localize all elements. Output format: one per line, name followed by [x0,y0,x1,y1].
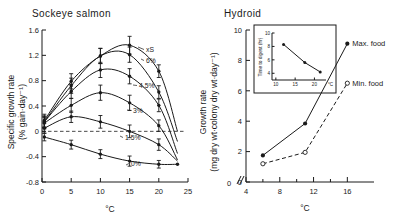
hydroid-legend-minfood: Min. food [352,79,383,88]
sockeye-data-point [70,104,73,107]
inset-data-point [319,70,322,73]
sockeye-label-leader [133,85,137,86]
sockeye-data-point [128,130,131,133]
sockeye-y-tick-label: 0.4 [29,102,39,111]
hydroid-plot-area: 02468104812160Max. foodMin. food [227,26,385,196]
sockeye-data-point [70,115,73,118]
hydroid-y-tick-label: 4 [238,117,242,126]
sockeye-data-point [99,68,102,71]
sockeye-curve-label-xs: xS [146,46,154,53]
hydroid-data-point-open [261,162,265,166]
hydroid-data-point-open [345,81,349,85]
sockeye-curve-label-15: 1.5% [125,134,141,141]
sockeye-data-point [157,90,160,93]
figure-container: Sockeye salmon Specific growth rate (% g… [0,0,409,218]
sockeye-data-point [157,104,160,107]
sockeye-y-tick-label: -0.4 [26,152,39,161]
sockeye-curve-label-6: 6% [146,57,156,64]
hydroid-x-axis-label: °C [300,203,310,213]
sockeye-salmon-chart: Sockeye salmon Specific growth rate (% g… [0,0,200,218]
sockeye-data-point [157,124,160,127]
inset-y-axis-label: Time to digest (hr) [258,37,263,76]
hydroid-y-tick-label: 8 [238,56,242,65]
sockeye-data-point [70,143,73,146]
sockeye-data-point [99,120,102,123]
sockeye-x-tick-label: 5 [69,187,73,196]
inset-y-tick-label: 4 [267,71,270,76]
hydroid-x-tick-label: 12 [309,187,317,196]
inset-curve [284,44,321,72]
inset-data-point [282,43,285,46]
sockeye-x-tick-label: 15 [125,187,133,196]
hydroid-x-tick-label: 4 [244,187,248,196]
inset-x-tick-label: 15 [293,82,299,87]
sockeye-y-tick-label: 1.6 [29,26,39,35]
hydroid-legend-maxfood: Max. food [352,39,385,48]
time-to-digest-inset-plot: 46810101520°CTime to digest (hr) [254,25,336,93]
sockeye-y-tick-label: 0 [35,127,39,136]
hydroid-x-tick-label: 16 [343,187,351,196]
sockeye-data-point [157,163,160,166]
sockeye-data-point [43,135,46,138]
sockeye-data-point [128,101,131,104]
hydroid-x-tick-label: 8 [278,187,282,196]
sockeye-plot-area: 1.61.20.80.40-0.4-0.80510152025xS6%4.5%3… [26,26,192,196]
sockeye-curve-45 [44,69,177,154]
hydroid-chart: Hydroid Growth rate (mg dry wt·colony dr… [200,0,409,218]
sockeye-data-point [70,90,73,93]
sockeye-x-tick-label: 20 [155,187,163,196]
inset-y-tick-label: 8 [267,44,270,49]
sockeye-data-point [99,54,102,57]
inset-x-tick-label: 20 [312,82,318,87]
sockeye-y-tick-label: 1.2 [29,51,39,60]
hydroid-y-tick-label: 10 [234,26,242,35]
sockeye-label-leader [126,164,129,166]
sockeye-curve-label-3: 3% [133,107,143,114]
inset-x-tick-label: 10 [273,82,279,87]
sockeye-data-point [128,75,131,78]
sockeye-label-leader [127,110,131,111]
sockeye-y-tick-label: 0.8 [29,76,39,85]
inset-x-axis-label: °C [328,82,334,87]
sockeye-x-tick-label: 25 [184,187,192,196]
hydroid-y-tick-label: 6 [238,87,242,96]
sockeye-label-leader [120,136,123,138]
hydroid-origin-label: 0 [227,179,231,188]
hydroid-y-axis-label-line1: Growth rate [200,90,208,135]
hydroid-data-point-filled [261,153,265,157]
hydroid-y-axis-label-line2: (mg dry wt·colony dry wt·day⁻¹) [209,52,219,171]
sockeye-label-leader [141,59,144,61]
sockeye-data-point [176,163,179,166]
hydroid-chart-title: Hydroid [224,8,261,19]
sockeye-data-point [99,152,102,155]
sockeye-data-point [99,91,102,94]
inset-y-tick-label: 10 [265,31,271,36]
sockeye-data-point [43,126,46,129]
sockeye-data-point [157,143,160,146]
sockeye-y-tick-label: -0.8 [26,178,39,187]
sockeye-data-point [128,53,131,56]
sockeye-x-tick-label: 0 [40,187,44,196]
inset-data-point [303,61,306,64]
inset-y-tick-label: 6 [267,58,270,63]
hydroid-y-tick-label: 2 [238,147,242,156]
sockeye-y-axis-label-line2: (% gain·day⁻¹) [17,84,27,140]
sockeye-chart-title: Sockeye salmon [32,8,111,19]
sockeye-data-point [157,69,160,72]
sockeye-x-axis-label: °C [105,204,115,214]
hydroid-data-point-open [303,150,307,154]
hydroid-curve-maxfood [263,44,347,156]
sockeye-y-axis-label-line1: Specific growth rate [6,74,16,149]
sockeye-x-tick-label: 10 [96,187,104,196]
sockeye-curve-label-0: 0% [131,160,141,167]
sockeye-data-point [128,44,131,47]
sockeye-curve-label-45: 4.5% [139,82,155,89]
hydroid-data-point-filled [303,121,307,125]
hydroid-data-point-filled [345,42,349,46]
